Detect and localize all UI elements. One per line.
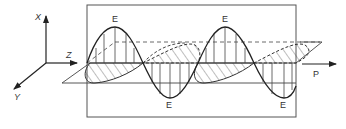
z-axis-label: Z [65, 50, 72, 60]
e-label-crest-2: E [222, 14, 228, 24]
b-lobe-2 [143, 44, 200, 63]
x-axis-label: X [34, 12, 42, 22]
e-label-crest-1: E [112, 14, 118, 24]
y-axis-label: Y [14, 92, 21, 102]
e-label-trough-1: E [166, 100, 172, 110]
e-label-trough-2: E [280, 100, 286, 110]
b-lobe-1 [85, 63, 143, 83]
propagation-label: P [313, 69, 319, 79]
b-lobe-3 [194, 63, 254, 83]
b-lobe-4 [254, 44, 309, 63]
magnetic-field-wave [85, 43, 309, 83]
y-axis [14, 63, 46, 89]
em-wave-diagram: X Z Y [0, 0, 346, 129]
diagram-canvas: X Z Y [0, 0, 346, 129]
